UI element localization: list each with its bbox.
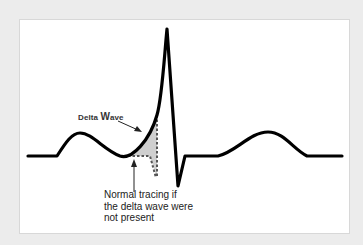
delta-label-suffix: ave: [110, 113, 124, 122]
arrow-pointing-up-icon: [131, 159, 137, 192]
delta-label-prefix: Delta: [78, 113, 100, 122]
normal-label-line2: the delta wave were: [104, 201, 214, 213]
normal-label-line3: not present: [104, 212, 214, 224]
delta-label-big-letter: W: [100, 111, 110, 122]
delta-wave-label: Delta Wave: [78, 111, 124, 122]
arrow-pointing-down-right-icon: [118, 121, 142, 132]
ecg-trace: [28, 29, 342, 186]
normal-tracing-label: Normal tracing if the delta wave were no…: [104, 189, 214, 224]
normal-label-line1: Normal tracing if: [104, 189, 214, 201]
